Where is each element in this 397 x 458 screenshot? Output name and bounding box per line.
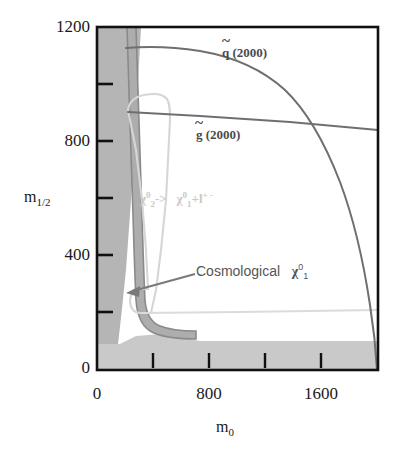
x-axis-title: m0: [216, 418, 234, 438]
x-axis-title-main: m: [216, 418, 228, 435]
y-axis-title-sub: 1/2: [36, 196, 50, 208]
figure-panel: 1200 800 400 0 0 800 1600 m1/2 m0 q (200…: [0, 0, 397, 458]
gluino-contour-label: g (2000): [196, 127, 240, 143]
x-axis-title-sub: 0: [228, 426, 234, 438]
y-tick-label-0: 0: [20, 358, 90, 378]
neutralino-decay-label: χ02-> χ01+l+ -: [140, 190, 213, 209]
gluino-symbol: g: [196, 127, 203, 142]
y-axis-title-main: m: [24, 188, 36, 205]
x-tick-label-800: 800: [174, 384, 244, 404]
squark-mass-text: (2000): [232, 45, 267, 60]
squark-contour-label: q (2000): [222, 45, 267, 61]
squark-symbol: q: [222, 45, 229, 60]
lepton-pair: +l: [192, 191, 203, 206]
y-tick-label-400: 400: [20, 245, 90, 265]
cosmological-label: Cosmological χ01: [196, 262, 308, 281]
gluino-mass-text: (2000): [206, 127, 241, 142]
cosmological-chi-index: 1: [303, 271, 308, 281]
cosmological-text: Cosmological: [196, 263, 280, 279]
x-tick-label-0: 0: [62, 384, 132, 404]
y-tick-label-800: 800: [20, 131, 90, 151]
decay-arrow: ->: [155, 191, 167, 206]
lepton-charges: + -: [203, 190, 213, 200]
y-axis-title: m1/2: [24, 188, 51, 208]
y-tick-label-1200: 1200: [20, 17, 90, 37]
x-tick-label-1600: 1600: [286, 384, 356, 404]
